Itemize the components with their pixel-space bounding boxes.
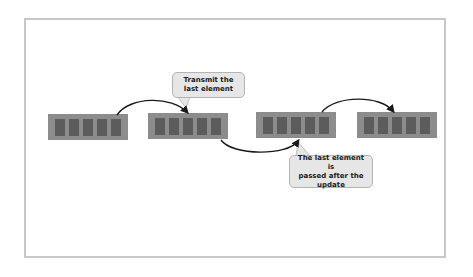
array-slot [378, 117, 388, 134]
callout-passed-after-update: The last element is passed after the upd… [289, 155, 373, 188]
array-slot [392, 117, 402, 134]
array-slot [197, 118, 207, 135]
array-slot [83, 119, 93, 136]
array-slot [277, 117, 287, 134]
array-slot [319, 117, 329, 134]
array-block-1 [48, 114, 128, 140]
array-slot [364, 117, 374, 134]
array-slot [111, 119, 121, 136]
array-block-2 [148, 113, 228, 139]
array-slot [183, 118, 193, 135]
array-slot [97, 119, 107, 136]
array-slot [55, 119, 65, 136]
array-slot [406, 117, 416, 134]
array-slot [211, 118, 221, 135]
array-slot [155, 118, 165, 135]
array-slot [305, 117, 315, 134]
array-slot [291, 117, 301, 134]
array-slot [169, 118, 179, 135]
array-block-3 [256, 112, 336, 138]
array-block-4 [357, 112, 437, 138]
array-slot [420, 117, 430, 134]
callout-transmit-last-element: Transmit the last element [172, 72, 245, 98]
array-slot [69, 119, 79, 136]
array-slot [263, 117, 273, 134]
